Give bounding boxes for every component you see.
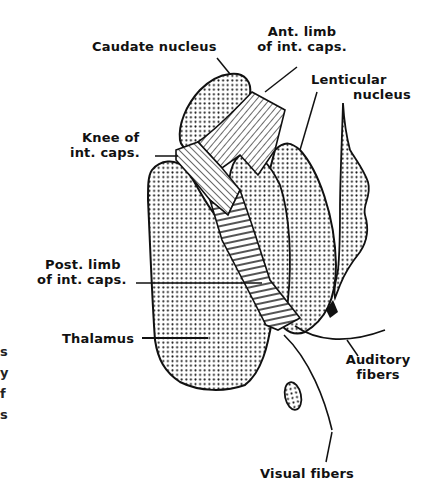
ant-limb-leader xyxy=(265,67,297,92)
geniculate-oval-shape xyxy=(282,381,303,412)
label-lenticular-line1: Lenticular xyxy=(311,72,411,87)
margin-fragment: f xyxy=(0,386,6,401)
label-visual-fibers: Visual fibers xyxy=(260,466,354,481)
label-anterior-limb: Ant. limb of int. caps. xyxy=(252,24,352,54)
margin-fragment: s xyxy=(0,407,8,422)
label-posterior-limb-line1: Post. limb xyxy=(37,257,127,272)
label-thalamus: Thalamus xyxy=(62,331,134,346)
label-anterior-limb-line2: of int. caps. xyxy=(252,39,352,54)
label-auditory-line2: fibers xyxy=(338,367,418,382)
label-knee-line2: int. caps. xyxy=(70,145,140,160)
label-posterior-limb: Post. limb of int. caps. xyxy=(37,257,127,287)
label-lenticular-line2: nucleus xyxy=(311,87,411,102)
diagram-canvas: Caudate nucleus Ant. limb of int. caps. … xyxy=(0,0,437,494)
label-auditory-line1: Auditory xyxy=(338,352,418,367)
label-auditory-fibers: Auditory fibers xyxy=(338,352,418,382)
label-caudate-nucleus: Caudate nucleus xyxy=(92,39,217,54)
label-anterior-limb-line1: Ant. limb xyxy=(252,24,352,39)
claustrum-shape xyxy=(334,103,369,298)
label-knee-line1: Knee of xyxy=(70,130,140,145)
margin-fragment: s xyxy=(0,344,8,359)
label-posterior-limb-line2: of int. caps. xyxy=(37,272,127,287)
margin-fragment: y xyxy=(0,365,8,380)
label-lenticular-nucleus: Lenticular nucleus xyxy=(311,72,411,102)
label-knee: Knee of int. caps. xyxy=(70,130,140,160)
visual-leader xyxy=(326,432,332,462)
caudate-leader xyxy=(217,58,230,74)
